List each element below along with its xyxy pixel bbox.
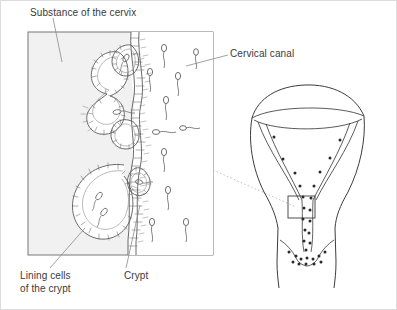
label-crypt: Crypt — [124, 270, 148, 283]
label-cervical-canal: Cervical canal — [230, 48, 294, 61]
anatomical-figure: Substance of the cervix Cervical canal L… — [0, 0, 397, 310]
inset-connector-dotted-line — [213, 170, 296, 207]
label-substance-of-the-cervix: Substance of the cervix — [30, 7, 136, 20]
label-lining-cells-of-the-crypt-line2: of the crypt — [20, 283, 71, 296]
diagram-canvas — [0, 0, 397, 310]
label-lining-cells-of-the-crypt-line1: Lining cells — [20, 270, 71, 283]
sperm-dots-overview — [273, 136, 342, 266]
